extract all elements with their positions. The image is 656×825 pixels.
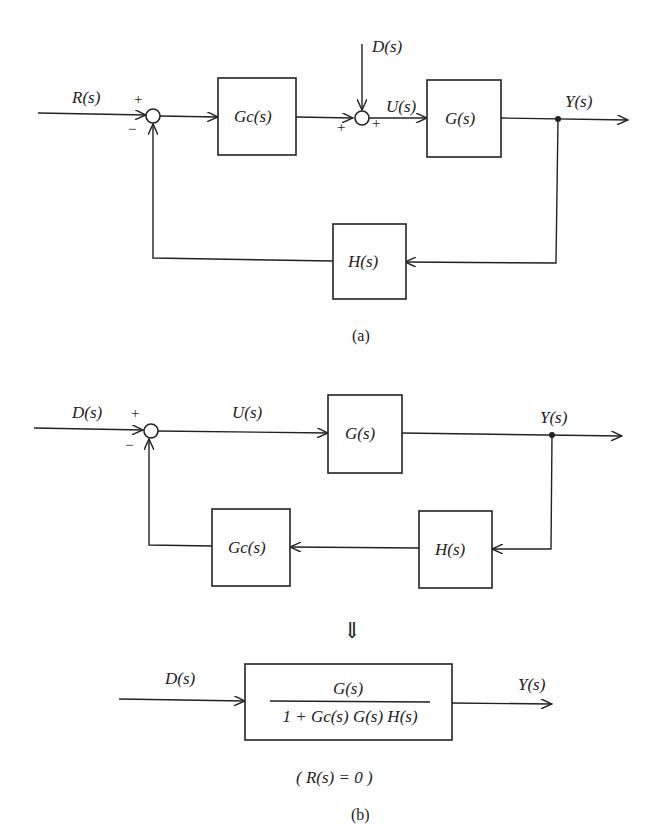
condition-text: ( R(s) = 0 ) bbox=[296, 768, 373, 787]
output-line-y-b bbox=[402, 433, 622, 436]
reduced-denominator: 1 + Gc(s) G(s) H(s) bbox=[282, 707, 418, 726]
input-line-r bbox=[38, 113, 146, 115]
diagram-a: R(s) + − Gc(s) + + D(s) U(s) G(s) Y(s) H… bbox=[38, 37, 628, 345]
g-block-b-label: G(s) bbox=[345, 424, 376, 443]
label-d-b: D(s) bbox=[71, 403, 103, 422]
sign-plus-j2-left: + bbox=[337, 119, 345, 135]
label-y: Y(s) bbox=[565, 92, 593, 111]
feedback-line-to-h-b bbox=[492, 435, 552, 549]
g-block-label: G(s) bbox=[445, 109, 476, 128]
label-u: U(s) bbox=[386, 97, 417, 116]
implies-arrow-icon: ⇓ bbox=[343, 618, 361, 643]
label-d: D(s) bbox=[371, 37, 403, 56]
label-r: R(s) bbox=[71, 88, 101, 107]
caption-b: (b) bbox=[351, 806, 370, 824]
sign-plus-j1: + bbox=[134, 91, 142, 107]
summing-junction-1 bbox=[146, 109, 160, 123]
gc-block-label: Gc(s) bbox=[234, 107, 272, 126]
gc-block-b-label: Gc(s) bbox=[228, 538, 266, 557]
reduced-output-line bbox=[452, 703, 552, 704]
reduced-label-y: Y(s) bbox=[518, 675, 546, 694]
label-y-b: Y(s) bbox=[540, 408, 568, 427]
output-line-y bbox=[501, 118, 628, 120]
line-gc-to-j2 bbox=[296, 117, 353, 118]
reduced-input-line bbox=[119, 699, 245, 701]
caption-a: (a) bbox=[352, 327, 370, 345]
label-u-b: U(s) bbox=[232, 403, 263, 422]
reduced-label-d: D(s) bbox=[164, 669, 196, 688]
line-jb-to-g bbox=[158, 431, 328, 433]
sign-minus-j1: − bbox=[128, 121, 136, 137]
summing-junction-2 bbox=[355, 111, 369, 125]
feedback-line-to-jb bbox=[149, 439, 212, 546]
sign-minus-jb: − bbox=[125, 437, 133, 453]
reduced-numerator: G(s) bbox=[333, 679, 364, 698]
input-line-d bbox=[34, 428, 143, 430]
line-j1-to-gc bbox=[160, 116, 218, 117]
fraction-bar bbox=[270, 701, 430, 702]
sign-plus-jb: + bbox=[131, 405, 139, 421]
diagram-b: D(s) + − U(s) G(s) Y(s) H(s) Gc(s) ⇓ D(s… bbox=[34, 395, 622, 824]
line-h-to-gc-b bbox=[290, 547, 419, 548]
h-block-b-label: H(s) bbox=[434, 540, 466, 559]
h-block-label: H(s) bbox=[347, 252, 379, 271]
summing-junction-b bbox=[144, 424, 158, 438]
block-diagram-canvas: R(s) + − Gc(s) + + D(s) U(s) G(s) Y(s) H… bbox=[0, 0, 656, 825]
